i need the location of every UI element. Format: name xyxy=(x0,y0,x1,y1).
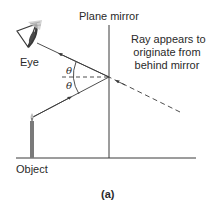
candle-icon xyxy=(30,113,34,158)
incident-ray-arrow xyxy=(33,98,70,118)
apparent-ray-arrow xyxy=(117,81,125,85)
mirror-label: Plane mirror xyxy=(79,10,139,23)
angle-arc xyxy=(74,62,79,94)
theta-incident-label: θ xyxy=(66,79,72,92)
eye-label: Eye xyxy=(20,56,39,69)
eye-icon xyxy=(17,20,42,47)
apparent-origin-note: Ray appears to originate from behind mir… xyxy=(131,33,203,72)
theta-reflected-label: θ xyxy=(66,64,72,77)
note-line-2: originate from xyxy=(131,46,203,59)
note-line-1: Ray appears to xyxy=(131,33,203,46)
object-label: Object xyxy=(16,163,48,176)
note-line-3: behind mirror xyxy=(131,59,203,72)
figure-caption: (a) xyxy=(101,188,114,201)
